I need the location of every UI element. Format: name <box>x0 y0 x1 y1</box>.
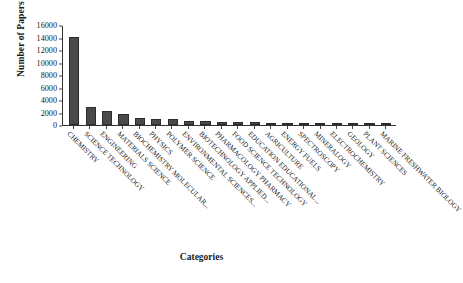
x-axis-tick-mark <box>303 126 304 129</box>
bar[interactable] <box>102 111 112 125</box>
x-axis-tick-mark <box>155 126 156 129</box>
bar[interactable] <box>135 118 145 125</box>
x-axis-tick-mark <box>352 126 353 129</box>
bar-item[interactable] <box>181 26 197 125</box>
x-axis-tick-mark <box>106 126 107 129</box>
bar[interactable] <box>168 119 178 125</box>
y-axis-tick-label: 2000 <box>41 110 57 118</box>
x-axis-tick-mark <box>122 126 123 129</box>
x-axis-tick-mark <box>73 126 74 129</box>
bar[interactable] <box>381 123 391 125</box>
x-axis-tick-mark <box>221 126 222 129</box>
bar-item[interactable] <box>82 26 98 125</box>
y-axis-tick-label: 0 <box>53 122 57 130</box>
bar-item[interactable] <box>345 26 361 125</box>
y-axis-tick-label: 6000 <box>41 85 57 93</box>
bar[interactable] <box>332 123 342 125</box>
bar[interactable] <box>282 123 292 125</box>
bar-item[interactable] <box>378 26 394 125</box>
bar-item[interactable] <box>263 26 279 125</box>
bar[interactable] <box>69 37 79 125</box>
bar-item[interactable] <box>246 26 262 125</box>
x-axis-category-labels: CHEMISTRYSCIENCE TECHNOLOGYENGINEERINGMA… <box>62 130 396 240</box>
bar[interactable] <box>348 123 358 125</box>
x-axis-tick-mark <box>254 126 255 129</box>
x-axis-tick-mark <box>320 126 321 129</box>
bar[interactable] <box>86 107 96 125</box>
bar-item[interactable] <box>329 26 345 125</box>
y-axis-tick-label: 16000 <box>37 22 57 30</box>
x-axis-tick-mark <box>270 126 271 129</box>
bar[interactable] <box>200 121 210 125</box>
bar[interactable] <box>299 123 309 125</box>
bar[interactable] <box>250 122 260 125</box>
x-axis-tick-mark <box>385 126 386 129</box>
bar[interactable] <box>217 122 227 126</box>
bar-item[interactable] <box>230 26 246 125</box>
bar[interactable] <box>233 122 243 125</box>
bar-item[interactable] <box>66 26 82 125</box>
bar-item[interactable] <box>214 26 230 125</box>
bar-series <box>63 26 396 125</box>
x-axis-tick-mark <box>369 126 370 129</box>
y-axis-tick-label: 12000 <box>37 47 57 55</box>
x-axis-tick-mark <box>287 126 288 129</box>
x-axis-tick-mark <box>188 126 189 129</box>
bar-item[interactable] <box>148 26 164 125</box>
bar[interactable] <box>151 119 161 125</box>
bar-item[interactable] <box>312 26 328 125</box>
x-axis-tick-mark <box>171 126 172 129</box>
bar-item[interactable] <box>197 26 213 125</box>
bar[interactable] <box>364 123 374 125</box>
bar[interactable] <box>315 123 325 125</box>
bar[interactable] <box>118 114 128 125</box>
x-axis-tick-mark <box>204 126 205 129</box>
bar-item[interactable] <box>361 26 377 125</box>
bar-item[interactable] <box>279 26 295 125</box>
bar[interactable] <box>266 123 276 125</box>
y-axis-tick-label: 10000 <box>37 60 57 68</box>
bar-item[interactable] <box>99 26 115 125</box>
y-axis-tick-labels: 1600014000120001000080006000400020000 <box>0 0 62 126</box>
x-axis-tick-mark <box>237 126 238 129</box>
y-axis-tick-label: 4000 <box>41 97 57 105</box>
x-axis-tick-mark <box>336 126 337 129</box>
bar-item[interactable] <box>164 26 180 125</box>
x-axis-category-label[interactable]: MARINE FRESHWATER BIOLOGY <box>379 130 463 214</box>
bar-item[interactable] <box>296 26 312 125</box>
bar[interactable] <box>184 121 194 125</box>
bar-item[interactable] <box>132 26 148 125</box>
plot-area <box>62 26 396 126</box>
x-axis-title: Categories <box>0 252 403 262</box>
x-axis-tick-mark <box>139 126 140 129</box>
bar-item[interactable] <box>115 26 131 125</box>
x-axis-tick-mark <box>89 126 90 129</box>
y-axis-tick-label: 14000 <box>37 35 57 43</box>
y-axis-tick-label: 8000 <box>41 72 57 80</box>
